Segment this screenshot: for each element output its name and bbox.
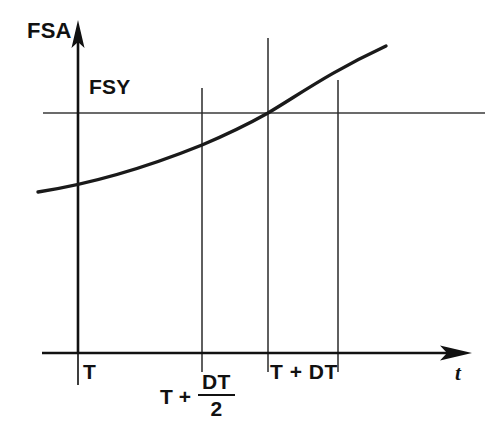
tick-label-t-plus-dt-half: T + DT 2: [160, 372, 235, 420]
fsy-threshold-label: FSY: [89, 76, 130, 97]
x-axis-label: t: [455, 363, 461, 384]
y-axis-label: FSA: [27, 20, 72, 42]
fraction-dt-over-2: DT 2: [198, 371, 235, 419]
fraction-denominator: 2: [207, 396, 227, 419]
fsa-curve: [38, 46, 386, 192]
fraction-numerator: DT: [198, 371, 235, 394]
tick-label-t-plus-dt: T + DT: [270, 361, 338, 382]
fsa-vs-time-chart: [0, 0, 497, 441]
tick-label-t-plus-dt-half-prefix: T +: [160, 386, 191, 407]
figure-canvas: FSA FSY t T T + DT 2 T + DT: [0, 0, 497, 441]
tick-label-t: T: [83, 361, 96, 382]
